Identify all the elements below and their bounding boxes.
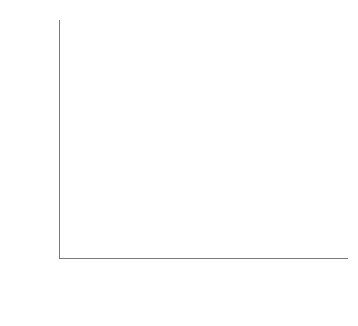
plot-area	[59, 20, 348, 258]
period-annotations	[0, 0, 358, 46]
chart-container	[0, 0, 358, 326]
president-term-band	[0, 278, 358, 310]
x-axis-tick-labels	[59, 260, 354, 278]
